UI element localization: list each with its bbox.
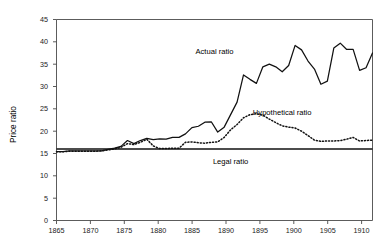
x-tick-label-1905: 1905 [320,226,336,235]
x-tick-label-1865: 1865 [49,226,65,235]
y-tick-label-0: 0 [44,216,48,225]
series-annotation-legal-ratio: Legal ratio [213,157,248,166]
x-tick-label-1900: 1900 [286,226,302,235]
y-tick-label-40: 40 [40,37,48,46]
y-tick-label-10: 10 [40,171,48,180]
y-tick-label-20: 20 [40,127,48,136]
x-tick-label-1875: 1875 [116,226,132,235]
y-tick-label-30: 30 [40,82,48,91]
y-tick-label-45: 45 [40,15,48,24]
x-tick-label-1890: 1890 [218,226,234,235]
price-ratio-line-chart: 45 40 35 30 25 20 15 10 5 0 Price ratio … [0,0,383,252]
y-axis-title: Price ratio [9,106,18,143]
y-tick-label-5: 5 [44,194,48,203]
x-tick-label-1895: 1895 [252,226,268,235]
x-tick-label-1910: 1910 [354,226,370,235]
chart-container: 45 40 35 30 25 20 15 10 5 0 Price ratio … [0,0,383,252]
series-annotation-hypothetical-ratio: Hypothetical ratio [253,108,312,117]
y-tick-label-15: 15 [40,149,48,158]
y-tick-label-35: 35 [40,60,48,69]
series-annotation-actual-ratio: Actual ratio [196,47,234,56]
x-tick-label-1885: 1885 [184,226,200,235]
x-tick-label-1880: 1880 [150,226,166,235]
y-tick-label-25: 25 [40,104,48,113]
chart-background [0,0,383,252]
x-tick-label-1870: 1870 [82,226,98,235]
